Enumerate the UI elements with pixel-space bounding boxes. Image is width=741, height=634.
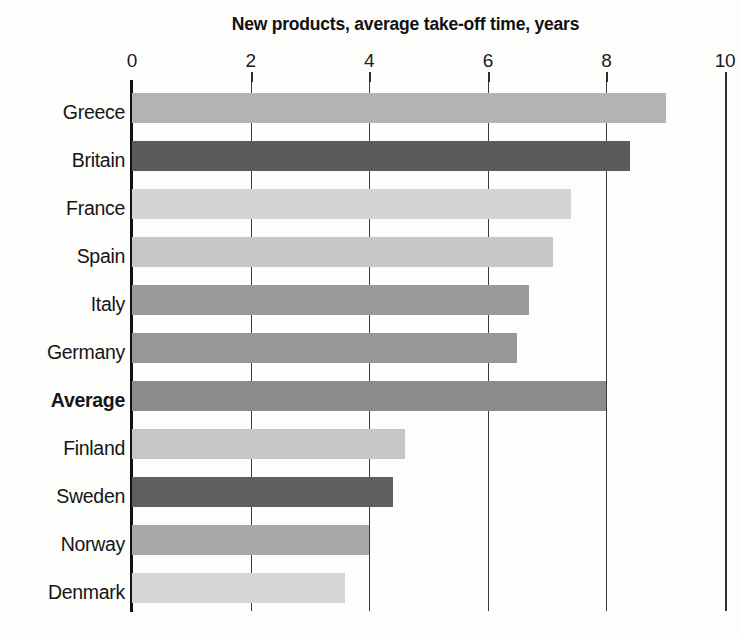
tick-mark-4 [369, 72, 371, 82]
bar-row: Finland [0, 424, 741, 472]
tick-mark-2 [251, 72, 253, 82]
bar-average [132, 381, 606, 411]
tick-mark-8 [606, 72, 608, 82]
bar-row: Denmark [0, 568, 741, 616]
category-label-greece: Greece [63, 101, 125, 124]
bar-france [132, 189, 571, 219]
bar-chart: New products, average take-off time, yea… [0, 0, 741, 634]
bar-row: Norway [0, 520, 741, 568]
category-label-finland: Finland [63, 437, 125, 460]
bar-germany [132, 333, 517, 363]
bar-britain [132, 141, 630, 171]
bar-row: Germany [0, 328, 741, 376]
bar-row: Spain [0, 232, 741, 280]
bar-italy [132, 285, 529, 315]
bar-row: Italy [0, 280, 741, 328]
category-label-germany: Germany [47, 341, 125, 364]
bar-greece [132, 93, 666, 123]
tick-mark-10 [725, 72, 727, 82]
bar-norway [132, 525, 369, 555]
category-label-britain: Britain [72, 149, 125, 172]
category-label-denmark: Denmark [48, 581, 125, 604]
bar-row: France [0, 184, 741, 232]
category-label-spain: Spain [77, 245, 125, 268]
category-label-average: Average [51, 389, 125, 412]
category-label-france: France [66, 197, 125, 220]
plot-area: GreeceBritainFranceSpainItalyGermanyAver… [0, 0, 741, 634]
category-label-italy: Italy [91, 293, 125, 316]
bar-spain [132, 237, 553, 267]
tick-mark-6 [488, 72, 490, 82]
category-label-norway: Norway [61, 533, 125, 556]
bar-row: Greece [0, 88, 741, 136]
bar-row: Average [0, 376, 741, 424]
bar-denmark [132, 573, 345, 603]
bar-row: Sweden [0, 472, 741, 520]
bar-finland [132, 429, 405, 459]
category-label-sweden: Sweden [56, 485, 125, 508]
bar-sweden [132, 477, 393, 507]
bar-row: Britain [0, 136, 741, 184]
